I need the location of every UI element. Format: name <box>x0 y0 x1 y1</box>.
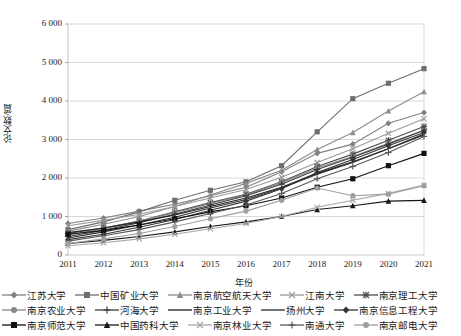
plus-marker-icon <box>95 304 119 316</box>
legend-item-label: 南京邮电大学 <box>379 318 438 332</box>
legend-item-label: 扬州大学 <box>286 303 325 317</box>
line-chart: 论文数/篇 01 0002 0003 0004 0005 0006 000 20… <box>0 0 461 336</box>
legend-item-label: 南京农业大学 <box>27 303 86 317</box>
legend-item-label: 南京师范大学 <box>27 318 86 332</box>
y-tick-label: 2 000 <box>18 172 62 182</box>
square-marker-icon <box>2 319 26 331</box>
legend-item-label: 南京工业大学 <box>193 303 252 317</box>
legend-item[interactable]: 中国矿业大学 <box>75 288 159 302</box>
x-tick-label: 2021 <box>404 259 444 269</box>
x-tick-label: 2013 <box>119 259 159 269</box>
diamond-marker-icon <box>334 304 358 316</box>
x-tick-label: 2011 <box>48 259 88 269</box>
legend-item[interactable]: 南京师范大学 <box>2 318 86 332</box>
circle-marker-icon <box>2 304 26 316</box>
x-tick-label: 2015 <box>190 259 230 269</box>
square-marker-icon <box>75 289 99 301</box>
legend-row: 南京师范大学中国药科大学南京林业大学南通大学南京邮电大学 <box>2 317 459 332</box>
legend-item-label: 南京信息工程大学 <box>359 303 437 317</box>
x-tick-label: 2020 <box>368 259 408 269</box>
legend-item-label: 南京理工大学 <box>379 288 438 302</box>
diamond-marker-icon <box>2 289 26 301</box>
star-marker-icon <box>354 289 378 301</box>
legend-item[interactable]: 南京农业大学 <box>2 303 86 317</box>
x-tick-label: 2018 <box>297 259 337 269</box>
legend-item[interactable]: 扬州大学 <box>261 303 325 317</box>
y-tick-label: 6 000 <box>18 18 62 28</box>
plus-marker-icon <box>280 319 304 331</box>
legend-item-label: 南京航空航天大学 <box>193 288 271 302</box>
y-tick-label: 3 000 <box>18 134 62 144</box>
y-tick-label: 5 000 <box>18 57 62 67</box>
legend-item[interactable]: 南京理工大学 <box>354 288 438 302</box>
legend-item[interactable]: 南京林业大学 <box>188 318 272 332</box>
x-tick-label: 2019 <box>333 259 373 269</box>
legend-row: 南京农业大学河海大学南京工业大学扬州大学南京信息工程大学 <box>2 302 459 317</box>
legend-item[interactable]: 江南大学 <box>280 288 344 302</box>
legend-item[interactable]: 河海大学 <box>95 303 159 317</box>
x-tick-label: 2017 <box>262 259 302 269</box>
legend-item[interactable]: 南京信息工程大学 <box>334 303 437 317</box>
x-marker-icon <box>280 289 304 301</box>
x-marker-icon <box>188 319 212 331</box>
triangle-marker-icon <box>95 319 119 331</box>
legend-item-label: 中国药科大学 <box>120 318 179 332</box>
x-tick-label: 2016 <box>226 259 266 269</box>
legend-row: 江苏大学中国矿业大学南京航空航天大学江南大学南京理工大学 <box>2 287 459 302</box>
chart-legend: 江苏大学中国矿业大学南京航空航天大学江南大学南京理工大学南京农业大学河海大学南京… <box>2 287 459 332</box>
legend-item-label: 南通大学 <box>305 318 344 332</box>
legend-item[interactable]: 南通大学 <box>280 318 344 332</box>
y-tick-label: 1 000 <box>18 211 62 221</box>
circle-marker-icon <box>354 319 378 331</box>
legend-item-label: 河海大学 <box>120 303 159 317</box>
legend-item-label: 江南大学 <box>305 288 344 302</box>
legend-item[interactable]: 南京邮电大学 <box>354 318 438 332</box>
line-marker-icon <box>261 304 285 316</box>
legend-item[interactable]: 南京工业大学 <box>168 303 252 317</box>
legend-item[interactable]: 南京航空航天大学 <box>168 288 271 302</box>
y-tick-label: 0 <box>18 249 62 259</box>
legend-item[interactable]: 中国药科大学 <box>95 318 179 332</box>
legend-item-label: 江苏大学 <box>27 288 66 302</box>
line-marker-icon <box>168 304 192 316</box>
triangle-marker-icon <box>168 289 192 301</box>
legend-item-label: 南京林业大学 <box>213 318 272 332</box>
x-tick-label: 2014 <box>155 259 195 269</box>
legend-item[interactable]: 江苏大学 <box>2 288 66 302</box>
y-tick-label: 4 000 <box>18 95 62 105</box>
x-tick-label: 2012 <box>84 259 124 269</box>
legend-item-label: 中国矿业大学 <box>100 288 159 302</box>
